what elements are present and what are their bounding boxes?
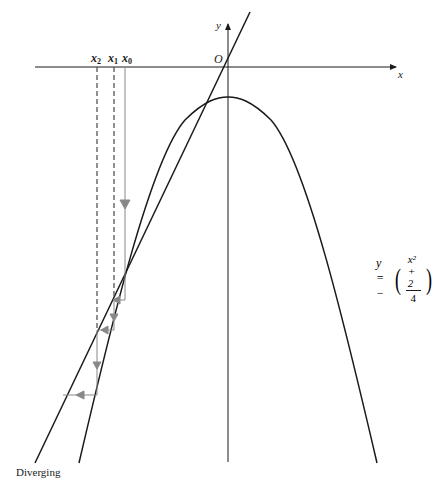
left-arrow-icon bbox=[101, 326, 108, 334]
equation-denominator: 4 bbox=[411, 291, 417, 304]
y-axis-label: y bbox=[216, 20, 221, 31]
down-arrow-icon bbox=[93, 362, 101, 369]
left-paren: ( bbox=[395, 267, 401, 291]
equation-lhs: y = − bbox=[376, 256, 390, 301]
right-paren: ) bbox=[426, 267, 432, 291]
iterate-label-x2: x2 bbox=[91, 52, 101, 66]
iterate-label-x0: x0 bbox=[122, 52, 132, 66]
equation-fraction: x² + 2 4 bbox=[406, 253, 421, 304]
down-arrow-icon bbox=[120, 200, 130, 209]
iterate-label-x1: x1 bbox=[108, 52, 118, 66]
diagram-canvas bbox=[0, 0, 434, 492]
left-arrow-icon bbox=[76, 391, 84, 399]
x-axis-label: x bbox=[398, 69, 403, 80]
equation-numerator: x² + 2 bbox=[406, 253, 421, 291]
down-arrow-icon bbox=[110, 314, 118, 321]
curve-equation: y = − ( x² + 2 4 ) bbox=[376, 253, 434, 304]
diagram-caption: Diverging bbox=[16, 467, 60, 478]
origin-label: O bbox=[214, 53, 223, 65]
